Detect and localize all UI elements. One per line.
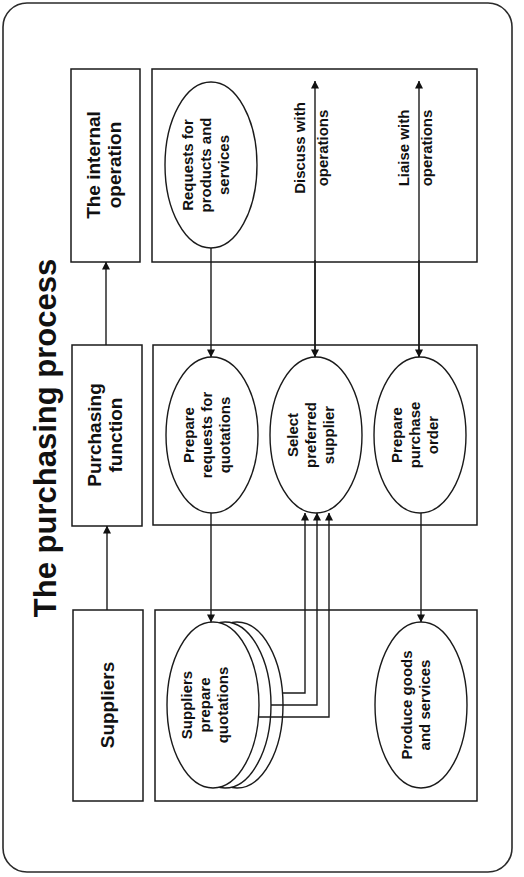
- node-label-line: quotations: [216, 397, 233, 474]
- node-requests-for-products: Requests for products and services: [165, 82, 257, 248]
- node-label-line: supplier: [320, 406, 337, 465]
- node-produce-goods-and-services: Produce goods and services: [375, 622, 467, 788]
- node-prepare-requests-for-quotations: Prepare requests for quotations: [166, 357, 258, 513]
- node-prepare-purchase-order: Prepare purchase order: [374, 357, 466, 513]
- node-label-line: requests for: [198, 391, 215, 478]
- node-label-line: order: [424, 416, 441, 455]
- lane-heading-purchasing-function: Purchasing function: [72, 345, 142, 526]
- node-select-preferred-supplier: Select preferred supplier: [270, 357, 362, 513]
- node-label-line: Prepare: [180, 407, 197, 463]
- node-label-line: Requests for: [179, 119, 196, 211]
- node-label-line: services: [215, 135, 232, 195]
- node-label-line: preferred: [302, 402, 319, 468]
- purchasing-process-diagram: The purchasing process The internal oper…: [0, 0, 524, 877]
- flow-label-line: operations: [418, 110, 435, 187]
- lane-heading-suppliers: Suppliers: [73, 610, 143, 801]
- flow-label-line: Liaise with: [395, 110, 412, 187]
- diagram-title: The purchasing process: [28, 259, 63, 617]
- node-label-line: Suppliers: [178, 671, 195, 739]
- node-label-line: Produce goods: [398, 650, 415, 759]
- node-label-line: products and: [197, 117, 214, 212]
- lane-heading-line: Purchasing: [84, 383, 105, 486]
- lane-heading-internal-operation: The internal operation: [71, 69, 140, 262]
- node-suppliers-prepare-quotations: Suppliers prepare quotations: [167, 622, 283, 788]
- node-label-line: Select: [284, 413, 301, 457]
- lane-heading-line: operation: [104, 122, 125, 209]
- node-label-line: prepare: [196, 677, 213, 732]
- lane-heading-line: The internal: [83, 111, 104, 219]
- node-label-line: quotations: [214, 667, 231, 744]
- lane-heading-line: function: [105, 398, 126, 473]
- node-label-line: purchase: [406, 402, 423, 469]
- node-label-line: Prepare: [388, 407, 405, 463]
- node-label-line: and services: [416, 660, 433, 751]
- flow-label-line: Discuss with: [291, 102, 308, 194]
- lane-heading-line: Suppliers: [97, 662, 118, 749]
- flow-label-line: operations: [314, 110, 331, 187]
